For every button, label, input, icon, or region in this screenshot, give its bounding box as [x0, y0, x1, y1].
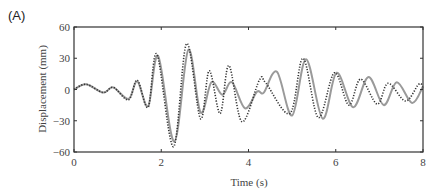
y-tick-label: 0 — [65, 84, 71, 96]
series-dotted-line — [74, 43, 423, 146]
y-axis-label: Displacement (mm) — [36, 45, 49, 133]
line-chart: 02468−60−3003060 Time (s) Displacement (… — [0, 0, 446, 194]
x-tick-label: 8 — [420, 156, 426, 168]
x-tick-label: 4 — [246, 156, 252, 168]
x-tick-label: 0 — [71, 156, 77, 168]
axes-frame — [74, 27, 423, 152]
series-solid-line — [74, 50, 423, 142]
y-tick-label: 60 — [59, 21, 71, 33]
x-tick-label: 6 — [333, 156, 339, 168]
y-tick-label: −60 — [53, 146, 71, 158]
y-tick-label: 30 — [59, 52, 71, 64]
x-tick-label: 2 — [159, 156, 165, 168]
x-axis-label: Time (s) — [230, 176, 268, 189]
y-tick-label: −30 — [53, 115, 71, 127]
plot-area — [74, 43, 423, 146]
